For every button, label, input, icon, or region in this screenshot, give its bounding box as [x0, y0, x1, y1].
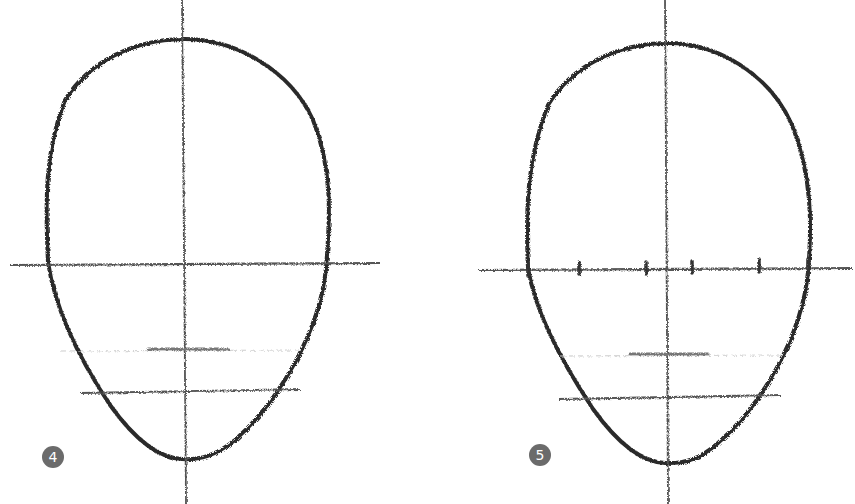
figure-step-5: [478, 0, 852, 504]
eye-line: [478, 268, 852, 270]
figure-step-4: [10, 0, 380, 504]
mouth-line: [558, 395, 780, 399]
nose-guide-faint: [60, 350, 300, 351]
head-outline: [527, 43, 810, 463]
nose-guide-faint: [560, 355, 785, 356]
mouth-line: [80, 389, 300, 393]
step-badge-4: 4: [42, 446, 64, 468]
step-badge-5: 5: [529, 444, 551, 466]
head-outline: [47, 39, 329, 459]
center-line: [182, 0, 186, 504]
center-line: [665, 0, 668, 504]
face-drawing-diagram: [0, 0, 855, 504]
